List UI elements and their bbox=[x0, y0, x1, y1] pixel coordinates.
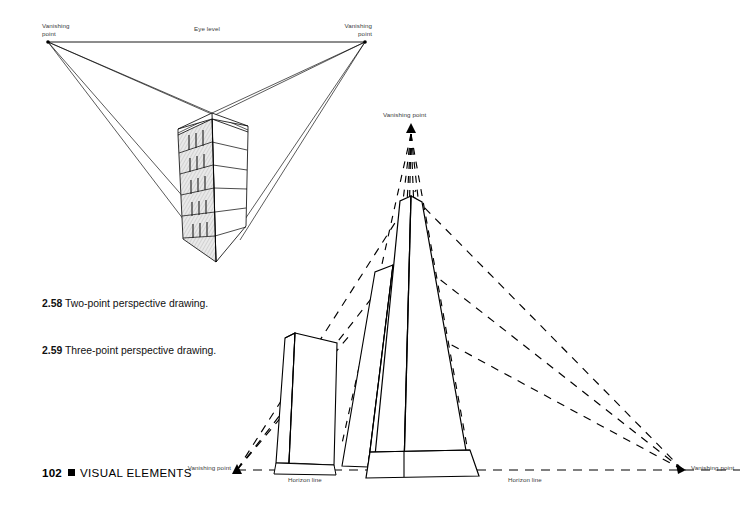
caption-text-2-59: Three-point perspective drawing. bbox=[65, 345, 216, 356]
label-horizon-line-right: Horizon line bbox=[508, 476, 542, 484]
building-left-face bbox=[178, 119, 216, 262]
tower-small-base-foot bbox=[274, 463, 336, 475]
tower-base-slab bbox=[366, 450, 479, 478]
label-horizon-line-left: Horizon line bbox=[288, 476, 322, 484]
caption-number-2-58: 2.58 bbox=[42, 298, 62, 309]
tower-main-right-face bbox=[404, 196, 468, 468]
figure-2-58-artwork bbox=[46, 40, 367, 262]
label-eye-level: Eye level bbox=[194, 25, 220, 33]
caption-figure-2-59: 2.59 Three-point perspective drawing. bbox=[42, 345, 216, 356]
caption-text-2-58: Two-point perspective drawing. bbox=[65, 298, 208, 309]
label-left-vanishing-point-2-58: Vanishing point bbox=[42, 22, 70, 37]
perspective-illustrations bbox=[0, 0, 746, 507]
page-canvas: Vanishing point Eye level Vanishing poin… bbox=[0, 0, 746, 507]
label-right-vanishing-point-2-58: Vanishing point bbox=[330, 22, 372, 37]
section-title: VISUAL ELEMENTS bbox=[80, 466, 192, 479]
left-vanishing-point-dot bbox=[46, 40, 50, 44]
caption-figure-2-58: 2.58 Two-point perspective drawing. bbox=[42, 298, 208, 309]
right-vanishing-point-triangle-icon bbox=[676, 464, 686, 474]
label-top-vanishing-point-2-59: Vanishing point bbox=[383, 111, 426, 119]
figure-2-59-artwork bbox=[232, 123, 740, 478]
square-bullet-icon bbox=[68, 469, 75, 476]
building-right-face bbox=[212, 119, 248, 262]
right-vanishing-point-dot bbox=[363, 40, 367, 44]
page-number: 102 bbox=[42, 466, 62, 479]
top-vanishing-point-triangle-icon bbox=[406, 123, 416, 133]
label-right-vanishing-point-2-59: Vanishing point bbox=[691, 464, 734, 472]
tower-small-right-face bbox=[289, 333, 337, 465]
caption-number-2-59: 2.59 bbox=[42, 345, 62, 356]
page-footer: 102 VISUAL ELEMENTS bbox=[42, 466, 192, 479]
